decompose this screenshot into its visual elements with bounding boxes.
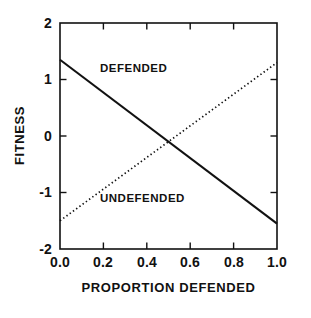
plot-frame xyxy=(60,23,277,249)
x-tick-label-0-4: 0.4 xyxy=(129,255,165,269)
x-tick-label-1-0: 1.0 xyxy=(259,255,295,269)
x-axis-ticks xyxy=(103,23,233,249)
y-tick-label-neg2: -2 xyxy=(26,242,52,256)
y-axis-title: FITNESS xyxy=(13,91,26,181)
fitness-vs-proportion-defended-chart: 2 1 0 -1 -2 0.0 0.2 0.4 0.6 0.8 1.0 FITN… xyxy=(0,0,311,318)
plot-canvas xyxy=(0,0,311,318)
x-tick-label-0-6: 0.6 xyxy=(172,255,208,269)
annotation-defended: DEFENDED xyxy=(100,63,167,75)
x-tick-label-0-2: 0.2 xyxy=(85,255,121,269)
y-tick-label-1: 1 xyxy=(30,72,52,86)
x-tick-label-0-0: 0.0 xyxy=(42,255,78,269)
annotation-undefended: UNDEFENDED xyxy=(100,193,185,205)
x-tick-label-0-8: 0.8 xyxy=(216,255,252,269)
y-tick-label-2: 2 xyxy=(30,16,52,30)
y-axis-ticks xyxy=(60,80,277,193)
x-axis-title: PROPORTION DEFENDED xyxy=(60,281,277,294)
y-tick-label-neg1: -1 xyxy=(26,185,52,199)
y-tick-label-0: 0 xyxy=(30,129,52,143)
